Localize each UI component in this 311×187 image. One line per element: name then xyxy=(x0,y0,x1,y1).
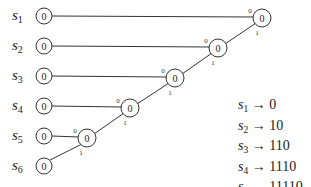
code-value: 11110 xyxy=(269,179,302,187)
leaf-node-label: 0 xyxy=(42,71,47,82)
internal-node-label: 0 xyxy=(85,133,90,144)
code-row-s1: s1 → 0 xyxy=(238,97,303,118)
edge-label-1: 1 xyxy=(79,149,83,157)
symbol-label-s3: s3 xyxy=(12,68,23,85)
edge-n4-n3 xyxy=(137,83,169,104)
arrow-icon: → xyxy=(252,138,266,153)
arrow-icon: → xyxy=(252,159,266,174)
symbol-label-s2: s2 xyxy=(12,38,23,55)
arrow-icon: → xyxy=(252,179,266,187)
leaf-node-label: 0 xyxy=(42,41,47,52)
edge-s3 xyxy=(52,76,167,77)
edge-n5-n4 xyxy=(94,113,124,134)
edge-label-1: 1 xyxy=(168,89,172,97)
leaf-node-label: 0 xyxy=(42,131,47,142)
code-row-s5: s5 → 11110 xyxy=(238,179,303,187)
code-value: 10 xyxy=(269,118,283,133)
leaf-node-label: 0 xyxy=(42,101,47,112)
code-value: 110 xyxy=(269,138,289,153)
code-row-s4: s4 → 1110 xyxy=(238,159,303,180)
edge-s4 xyxy=(52,106,122,107)
edge-label-0: 0 xyxy=(204,37,208,45)
code-table: s1 → 0 s2 → 10 s3 → 110 s4 → 1110 s5 → 1… xyxy=(238,97,303,187)
edge-s2 xyxy=(52,46,210,47)
internal-node-label: 0 xyxy=(128,103,133,114)
internal-node-label: 0 xyxy=(173,73,178,84)
symbol-label-s5: s5 xyxy=(12,128,23,145)
symbol-label-s1: s1 xyxy=(12,8,23,25)
edge-s5 xyxy=(52,136,79,137)
edge-s6 xyxy=(50,144,82,160)
symbol-label-s6: s6 xyxy=(12,158,23,175)
edge-n2-n1 xyxy=(225,23,256,44)
arrow-icon: → xyxy=(252,97,266,112)
leaf-node-label: 0 xyxy=(42,11,47,22)
internal-node-label: 0 xyxy=(260,13,265,24)
code-row-s3: s3 → 110 xyxy=(238,138,303,159)
arrow-icon: → xyxy=(252,118,266,133)
edge-label-0: 0 xyxy=(116,97,120,105)
edge-label-0: 0 xyxy=(248,7,252,15)
symbol-label-s4: s4 xyxy=(12,98,23,115)
edge-label-0: 0 xyxy=(161,67,165,75)
code-row-s2: s2 → 10 xyxy=(238,118,303,139)
code-value: 1110 xyxy=(269,159,296,174)
leaf-node-label: 0 xyxy=(42,161,47,172)
edge-label-1: 1 xyxy=(123,119,127,127)
edge-label-0: 0 xyxy=(73,127,77,135)
edge-n3-n2 xyxy=(182,53,212,74)
internal-node-label: 0 xyxy=(216,43,221,54)
code-value: 0 xyxy=(269,97,276,112)
edge-s1 xyxy=(52,16,254,17)
edge-label-1: 1 xyxy=(211,59,215,67)
edge-label-1: 1 xyxy=(255,29,259,37)
